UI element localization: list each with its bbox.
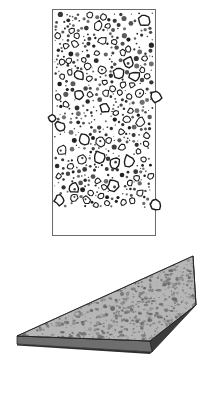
particle-dot (119, 13, 122, 16)
particle-dot (142, 202, 145, 205)
aggregate-speck (67, 296, 69, 297)
aggregate-speck (98, 267, 99, 268)
particle-ring (113, 110, 119, 115)
aggregate-speck (29, 282, 30, 283)
particle-dot (112, 108, 114, 110)
aggregate-speck (81, 256, 82, 257)
aggregate-speck (100, 270, 105, 273)
aggregate-speck (29, 283, 30, 284)
particle-dot (133, 153, 135, 155)
aggregate-speck (127, 262, 130, 264)
aggregate-speck (18, 329, 22, 331)
particle-dot (133, 188, 136, 191)
particle-dot (95, 15, 99, 19)
aggregate-speck (89, 264, 95, 267)
aggregate-speck (53, 304, 56, 306)
aggregate-speck (90, 293, 92, 294)
particle-dot (72, 61, 75, 64)
particle-dot (129, 188, 132, 191)
particle-dot (96, 87, 99, 90)
particle-dot (113, 93, 114, 94)
aggregate-speck (24, 323, 28, 327)
aggregate-speck (111, 264, 112, 265)
particle-dot (60, 133, 61, 134)
aggregate-speck (93, 260, 94, 261)
particle-dot (67, 39, 70, 42)
particle-dot (110, 46, 112, 48)
aggregate-speck (41, 317, 45, 321)
aggregate-speck (66, 290, 68, 292)
particle-dot (86, 49, 88, 51)
aggregate-speck (117, 268, 118, 269)
aggregate-speck (96, 259, 98, 261)
aggregate-speck (36, 291, 40, 295)
particle-dot (110, 115, 112, 117)
aggregate-speck (36, 297, 38, 298)
aggregate-speck (124, 279, 127, 281)
particle-dot (78, 132, 79, 133)
particle-dot (129, 140, 130, 141)
aggregate-speck (119, 278, 122, 280)
aggregate-speck (148, 264, 150, 266)
aggregate-speck (20, 299, 23, 302)
particle-ring (127, 94, 132, 100)
particle-dot (151, 107, 153, 109)
particle-dot (126, 176, 129, 179)
aggregate-speck (126, 273, 128, 274)
aggregate-speck (61, 306, 64, 309)
aggregate-speck (61, 266, 62, 267)
aggregate-speck (123, 275, 126, 278)
particle-dot (143, 174, 146, 177)
aggregate-speck (120, 282, 121, 283)
particle-dot (110, 205, 112, 207)
aggregate-speck (144, 269, 145, 270)
aggregate-speck (37, 303, 38, 304)
particle-ring (69, 28, 74, 33)
aggregate-speck (28, 259, 30, 261)
particle-ring (148, 173, 154, 179)
aggregate-speck (135, 267, 136, 268)
aggregate-speck (21, 283, 24, 286)
aggregate-speck (51, 266, 53, 268)
aggregate-speck (180, 326, 181, 327)
aggregate-speck (69, 299, 71, 301)
particle-ring (71, 194, 78, 201)
aggregate-speck (135, 272, 137, 273)
particle-dot (111, 35, 113, 37)
aggregate-speck (20, 258, 23, 261)
aggregate-speck (33, 280, 37, 284)
particle-ring (55, 94, 61, 100)
aggregate-speck (55, 282, 58, 284)
aggregate-speck (47, 300, 49, 301)
aggregate-speck (17, 288, 22, 291)
aggregate-speck (167, 338, 169, 339)
aggregate-speck (56, 258, 63, 262)
particle-dot (87, 37, 91, 41)
particle-ring (106, 138, 112, 144)
particle-dot (117, 138, 121, 142)
particle-dot (82, 122, 85, 125)
aggregate-speck (37, 316, 39, 317)
aggregate-speck (24, 285, 25, 286)
aggregate-speck (17, 287, 18, 288)
particle-dot (110, 127, 113, 130)
aggregate-speck (60, 268, 61, 269)
aggregate-speck (17, 324, 19, 325)
aggregate-speck (61, 265, 65, 269)
aggregate-speck (86, 269, 88, 270)
aggregate-speck (132, 269, 133, 270)
particle-dot (76, 167, 78, 169)
particle-ring (63, 101, 69, 107)
particle-dot (149, 43, 154, 48)
aggregate-speck (126, 261, 130, 263)
aggregate-speck (136, 258, 138, 260)
aggregate-speck (57, 307, 61, 309)
aggregate-speck (79, 267, 84, 272)
panel-micrograph (0, 0, 208, 245)
aggregate-speck (121, 258, 126, 261)
aggregate-speck (82, 289, 85, 292)
aggregate-speck (24, 287, 25, 288)
aggregate-speck (54, 277, 56, 279)
aggregate-speck (32, 273, 33, 274)
aggregate-speck (55, 263, 57, 264)
